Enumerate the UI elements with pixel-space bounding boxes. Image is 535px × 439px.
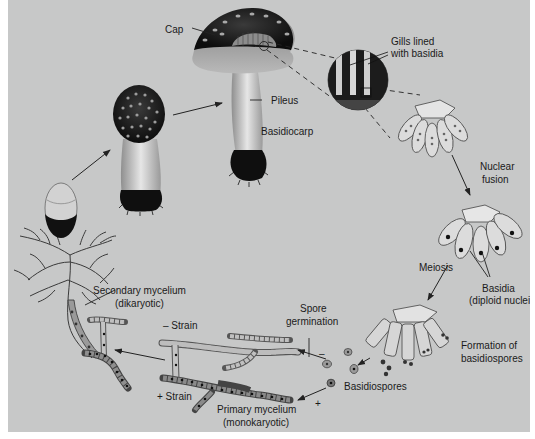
- label-plus-strain: + Strain: [157, 391, 192, 403]
- label-formation-line2: basidiospores: [461, 353, 523, 365]
- label-gills-line1: Gills lined: [391, 36, 434, 48]
- label-cap: Cap: [165, 24, 183, 36]
- label-secondary-line2: (dikaryotic): [115, 298, 164, 310]
- label-meiosis: Meiosis: [419, 262, 453, 274]
- label-secondary-line1: Secondary mycelium: [93, 285, 186, 297]
- label-spore-germination-line2: germination: [286, 316, 338, 328]
- label-minus-strain: – Strain: [163, 320, 197, 332]
- label-formation-line1: Formation of: [461, 340, 517, 352]
- label-spore-germination-line1: Spore: [300, 303, 327, 315]
- dikaryotic-mycelium: [85, 319, 128, 388]
- young-mushroom: [113, 85, 165, 216]
- label-basidia-line2: (diploid nuclei): [469, 295, 530, 307]
- life-cycle-diagram: Cap Gills lined with basidia Pileus Basi…: [8, 0, 530, 432]
- label-basidia-line1: Basidia: [482, 283, 515, 295]
- label-nuclear-fusion-line2: fusion: [482, 174, 509, 186]
- label-primary-line2: (monokaryotic): [223, 417, 289, 429]
- label-primary-line1: Primary mycelium: [217, 404, 296, 416]
- label-pileus: Pileus: [271, 95, 298, 107]
- label-basidiospores: Basidiospores: [344, 381, 407, 393]
- diagram-artwork: [8, 0, 530, 432]
- label-plus-sign: +: [315, 398, 321, 410]
- label-minus-sign: –: [319, 348, 325, 360]
- gill-magnifier: [328, 50, 390, 110]
- basidia-spore-formation: [365, 305, 450, 376]
- label-gills-line2: with basidia: [391, 48, 443, 60]
- basidia-diploid: [434, 205, 526, 262]
- label-nuclear-fusion-line1: Nuclear: [480, 161, 514, 173]
- basidia-dikaryotic: [394, 100, 471, 157]
- label-basidiocarp: Basidiocarp: [261, 126, 313, 138]
